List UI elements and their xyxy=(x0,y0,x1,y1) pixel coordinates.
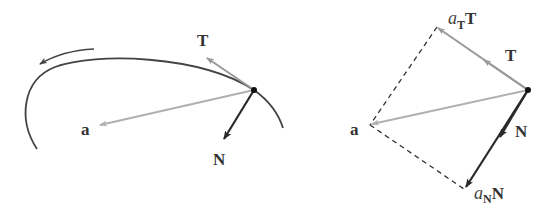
acceleration-decomposition-diagram: T a N aTT T a N aNN xyxy=(0,0,549,213)
normal-vector xyxy=(224,90,254,139)
normal-label: N xyxy=(213,150,226,169)
acceleration-label: a xyxy=(350,120,359,139)
normal-component-label: aNN xyxy=(474,183,505,206)
motion-direction-arrow-icon xyxy=(40,49,94,64)
unit-normal-label: N xyxy=(515,122,528,141)
acceleration-label: a xyxy=(81,120,90,139)
position-point xyxy=(525,87,531,93)
position-point xyxy=(251,87,257,93)
acceleration-vector xyxy=(100,90,254,125)
tangent-vector xyxy=(207,58,254,90)
dashed-line-bottom xyxy=(370,125,464,189)
acceleration-vector xyxy=(372,90,528,124)
tangent-label: T xyxy=(197,31,209,50)
tangential-component-label: aTT xyxy=(448,8,477,32)
right-diagram: aTT T a N aNN xyxy=(350,8,531,206)
unit-tangent-label: T xyxy=(505,46,517,65)
left-diagram: T a N xyxy=(26,31,283,169)
dashed-line-top xyxy=(370,27,437,125)
